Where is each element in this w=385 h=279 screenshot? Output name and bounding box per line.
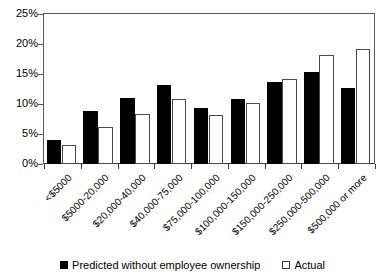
legend-label-predicted: Predicted without employee ownership [72, 259, 260, 271]
bar-actual [246, 103, 261, 164]
chart-legend: Predicted without employee ownership Act… [0, 256, 385, 274]
bar-predicted [83, 111, 98, 164]
legend-label-actual: Actual [294, 259, 325, 271]
bar-predicted [304, 72, 319, 164]
y-tick-label: 10% [6, 98, 38, 109]
y-tick-label: 25% [6, 8, 38, 19]
bar-actual [62, 145, 77, 164]
filled-square-icon [60, 261, 68, 269]
bar-predicted [267, 82, 282, 164]
bar-actual [98, 127, 113, 164]
bar-predicted [194, 108, 209, 164]
y-tick-label: 15% [6, 68, 38, 79]
bar-predicted [231, 99, 246, 164]
bar-predicted [157, 85, 172, 164]
bar-actual [209, 115, 224, 164]
bar-predicted [341, 88, 356, 164]
bar-predicted [120, 98, 135, 164]
x-axis-labels: <$5000$5000-20,000$20,000-40,000$40,000-… [0, 164, 385, 249]
plot-area [44, 14, 375, 164]
bar-actual [172, 99, 187, 164]
y-tick-label: 20% [6, 38, 38, 49]
hollow-square-icon [282, 261, 290, 269]
bar-actual [282, 79, 297, 164]
legend-item-actual: Actual [282, 259, 325, 271]
bar-actual [135, 114, 150, 164]
bar-predicted [47, 140, 62, 164]
bar-actual [319, 55, 334, 164]
y-axis-labels: 0%5%10%15%20%25% [0, 0, 38, 180]
bar-actual [356, 49, 371, 164]
bar-chart: 0%5%10%15%20%25% <$5000$5000-20,000$20,0… [0, 0, 385, 279]
y-tick-label: 5% [6, 128, 38, 139]
legend-item-predicted: Predicted without employee ownership [60, 259, 260, 271]
